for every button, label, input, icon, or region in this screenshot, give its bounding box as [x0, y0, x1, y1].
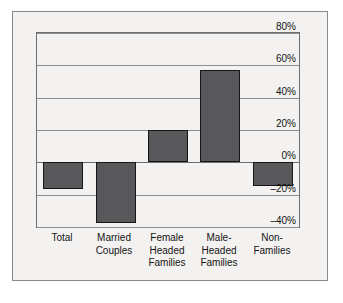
y-tick-label-60: 60% — [276, 53, 296, 65]
y-tick-label-80: 80% — [276, 21, 296, 33]
plot-area: 80%60%40%20%0%–20%–40% — [36, 32, 300, 228]
y-tick-label-40: 40% — [276, 86, 296, 98]
x-tick-label: Male- Headed Families — [193, 232, 245, 270]
gridline--40 — [37, 227, 299, 228]
y-tick-label--40: –40% — [270, 215, 296, 227]
y-tick-label-20: 20% — [276, 118, 296, 130]
x-axis-labels: TotalMarried CouplesFemale Headed Famili… — [36, 232, 300, 284]
chart-page: 80%60%40%20%0%–20%–40% TotalMarried Coup… — [0, 0, 343, 303]
y-axis-labels: 80%60%40%20%0%–20%–40% — [37, 33, 299, 227]
y-tick-label--20: –20% — [270, 183, 296, 195]
x-tick-label: Married Couples — [88, 232, 140, 257]
y-tick-label-0: 0% — [282, 150, 296, 162]
x-tick-label: Total — [36, 232, 88, 245]
x-tick-label: Female Headed Families — [141, 232, 193, 270]
x-tick-label: Non- Families — [246, 232, 298, 257]
